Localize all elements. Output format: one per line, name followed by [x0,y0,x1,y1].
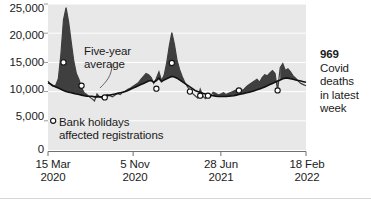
bank-holiday-marker [61,60,66,65]
five-year-average-line2: average [84,58,131,71]
bank-holiday-marker [205,93,210,98]
x-tick-1: 5 Nov 2020 [90,158,180,184]
covid-deaths-chart: 25,000 20,000 15,000 10,000 5,000 0 Five… [0,0,371,203]
x-axis-ticks [48,152,306,157]
bank-holiday-marker [275,88,280,93]
x-tick-3-line2: 2022 [262,171,352,184]
x-tick-2-line2: 2021 [176,171,266,184]
bottom-divider [0,198,371,199]
x-tick-3-line1: 18 Feb [262,158,352,171]
bank-holidays-annotation: Bank holidays affected registrations [59,116,163,142]
bank-holiday-marker [198,93,203,98]
five-year-average-line1: Five-year [84,45,131,58]
bank-holidays-line2: affected registrations [59,129,163,142]
latest-week-callout: 969 Covid deaths in latest week [320,48,359,116]
bank-holiday-marker [187,89,192,94]
callout-line4: week [320,102,359,116]
x-tick-1-line1: 5 Nov [90,158,180,171]
bank-holiday-marker [169,60,174,65]
x-tick-0-line1: 15 Mar [8,158,98,171]
bank-holiday-marker [102,95,107,100]
callout-line1: Covid [320,62,359,76]
legend-marker [51,118,56,123]
bank-holiday-marker [79,83,84,88]
x-tick-2-line1: 28 Jun [176,158,266,171]
callout-value: 969 [320,48,359,62]
bank-holiday-marker [236,88,241,93]
five-year-average-annotation: Five-year average [84,45,131,71]
bank-holidays-line1: Bank holidays [59,116,163,129]
bank-holiday-marker [154,86,159,91]
callout-line2: deaths [320,75,359,89]
x-tick-3: 18 Feb 2022 [262,158,352,184]
x-tick-0-line2: 2020 [8,171,98,184]
x-tick-0: 15 Mar 2020 [8,158,98,184]
x-tick-2: 28 Jun 2021 [176,158,266,184]
callout-line3: in latest [320,89,359,103]
x-tick-1-line2: 2020 [90,171,180,184]
